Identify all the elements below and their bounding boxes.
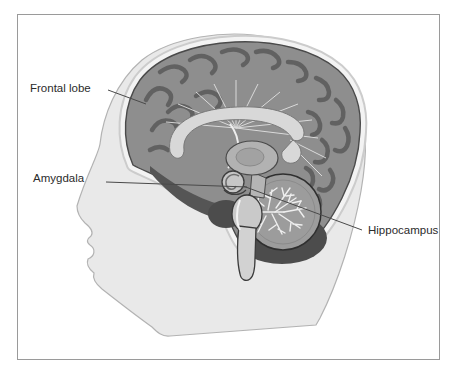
figure-canvas: Frontal lobe Amygdala Hippocampus: [0, 0, 456, 378]
label-frontal-lobe: Frontal lobe: [30, 82, 91, 95]
brain-illustration: [0, 0, 456, 378]
label-hippocampus: Hippocampus: [368, 224, 438, 237]
thalamus-inner: [236, 148, 264, 166]
label-amygdala: Amygdala: [33, 172, 84, 185]
